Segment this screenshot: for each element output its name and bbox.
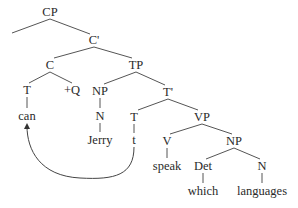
node-vp: VP xyxy=(194,111,210,124)
node-v: V xyxy=(162,135,171,148)
word-trace: t xyxy=(132,134,135,147)
branch-tp-np xyxy=(104,72,136,84)
word-speak: speak xyxy=(153,160,181,173)
word-languages: languages xyxy=(237,185,287,198)
branch-cbar-c xyxy=(54,47,94,58)
node-c: C xyxy=(46,59,54,72)
node-c-bar: C' xyxy=(89,34,100,47)
word-jerry: Jerry xyxy=(88,134,113,147)
node-n-subject: N xyxy=(95,110,104,123)
branch-vp-np xyxy=(202,124,232,134)
node-plus-q: +Q xyxy=(64,84,80,97)
branch-c-t xyxy=(29,72,50,83)
node-t-bar: T' xyxy=(163,86,173,99)
branch-cp-spec xyxy=(12,19,50,33)
syntax-tree-diagram: CP C' C TP T +Q NP T' can N T VP Jerry t… xyxy=(0,0,298,208)
branch-c-q xyxy=(50,72,72,83)
branch-np-det xyxy=(206,148,234,159)
branch-vp-v xyxy=(170,124,202,134)
branch-cbar-tp xyxy=(94,47,132,58)
word-can: can xyxy=(18,110,35,123)
branch-cp-cbar xyxy=(50,19,90,34)
node-t-head: T xyxy=(23,84,31,97)
node-t-lower: T xyxy=(130,111,138,124)
node-np-subject: NP xyxy=(92,85,108,98)
branch-tp-tbar xyxy=(136,72,165,85)
branch-tbar-t xyxy=(138,99,168,110)
node-np-object: NP xyxy=(226,135,242,148)
node-cp: CP xyxy=(42,6,57,19)
tree-branches xyxy=(0,0,298,208)
node-tp: TP xyxy=(129,59,144,72)
branch-np-n2 xyxy=(234,148,260,159)
movement-arrow xyxy=(27,126,134,178)
word-which: which xyxy=(188,185,219,198)
branch-tbar-vp xyxy=(168,99,198,110)
node-n-object: N xyxy=(257,160,266,173)
node-det: Det xyxy=(194,160,212,173)
